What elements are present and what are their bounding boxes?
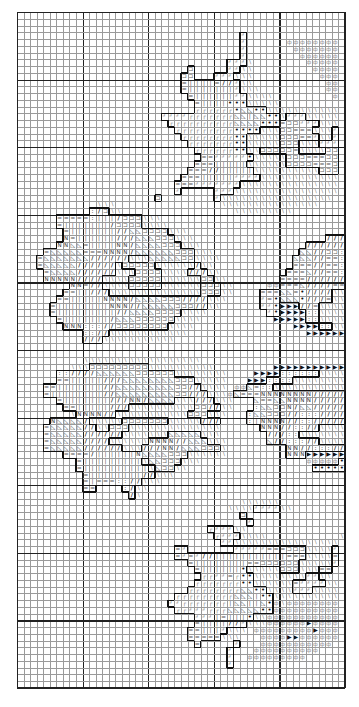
outline-segment	[188, 552, 195, 553]
outline-segment	[246, 620, 247, 627]
outline-segment	[194, 79, 201, 80]
minor-gridline	[17, 269, 345, 270]
outline-segment	[259, 424, 260, 431]
outline-segment	[319, 241, 326, 242]
outline-segment	[121, 485, 122, 492]
outline-segment	[293, 545, 300, 546]
outline-segment	[115, 269, 116, 276]
outline-segment	[259, 174, 260, 181]
outline-segment	[253, 154, 254, 161]
outline-segment	[220, 404, 221, 411]
outline-segment	[312, 390, 319, 391]
outline-segment	[233, 188, 234, 195]
outline-segment	[253, 614, 254, 621]
outline-segment	[122, 268, 129, 269]
outline-segment	[155, 471, 162, 472]
outline-segment	[253, 505, 260, 506]
outline-segment	[174, 607, 175, 614]
outline-segment	[247, 566, 254, 567]
minor-gridline	[17, 100, 345, 101]
outline-segment	[338, 161, 339, 168]
outline-segment	[174, 397, 175, 404]
outline-segment	[247, 106, 254, 107]
outline-segment	[293, 370, 300, 371]
outline-segment	[109, 329, 116, 330]
outline-segment	[266, 147, 273, 148]
outline-segment	[155, 403, 162, 404]
outline-segment	[82, 336, 83, 343]
outline-segment	[168, 431, 175, 432]
outline-segment	[108, 330, 109, 337]
outline-segment	[148, 437, 155, 438]
outline-segment	[43, 383, 50, 384]
minor-gridline	[17, 526, 345, 527]
outline-segment	[63, 417, 70, 418]
minor-gridline	[17, 336, 345, 337]
outline-segment	[246, 39, 247, 46]
outline-segment	[122, 329, 129, 330]
outline-segment	[174, 113, 181, 114]
outline-segment	[344, 418, 345, 425]
outline-segment	[319, 464, 326, 465]
outline-segment	[129, 363, 136, 364]
outline-segment	[115, 424, 122, 425]
outline-segment	[122, 451, 129, 452]
outline-segment	[121, 262, 122, 269]
outline-segment	[56, 241, 63, 242]
outline-segment	[239, 66, 240, 73]
outline-segment	[239, 512, 240, 519]
outline-segment	[279, 134, 280, 141]
outline-segment	[214, 525, 221, 526]
outline-segment	[253, 505, 254, 512]
outline-segment	[129, 403, 136, 404]
outline-segment	[247, 383, 254, 384]
outline-segment	[174, 316, 175, 323]
major-gridline	[17, 620, 345, 621]
outline-segment	[279, 120, 286, 121]
outline-segment	[279, 370, 286, 371]
outline-segment	[253, 545, 260, 546]
outline-segment	[338, 127, 339, 134]
outline-segment	[188, 167, 195, 168]
outline-segment	[325, 580, 326, 587]
minor-gridline	[17, 505, 345, 506]
minor-gridline	[17, 32, 345, 33]
outline-segment	[312, 587, 313, 594]
outline-segment	[109, 363, 116, 364]
outline-segment	[102, 485, 109, 486]
outline-segment	[325, 451, 332, 452]
outline-segment	[76, 214, 83, 215]
outline-segment	[36, 255, 37, 262]
outline-segment	[148, 329, 155, 330]
outline-segment	[292, 255, 293, 262]
major-gridline	[17, 688, 345, 689]
major-gridline	[17, 12, 345, 13]
outline-segment	[109, 437, 116, 438]
outline-segment	[344, 397, 345, 404]
outline-segment	[253, 397, 254, 404]
outline-segment	[129, 289, 136, 290]
minor-gridline	[17, 499, 345, 500]
minor-gridline	[17, 654, 345, 655]
outline-segment	[128, 404, 129, 411]
outline-segment	[43, 424, 50, 425]
minor-gridline	[17, 681, 345, 682]
outline-segment	[194, 147, 195, 154]
outline-segment	[115, 410, 122, 411]
outline-segment	[207, 296, 208, 303]
outline-segment	[188, 417, 195, 418]
outline-segment	[331, 553, 332, 560]
outline-segment	[344, 255, 345, 262]
minor-gridline	[17, 519, 345, 520]
outline-segment	[233, 661, 234, 668]
outline-segment	[43, 384, 44, 391]
outline-segment	[148, 403, 155, 404]
outline-segment	[338, 167, 339, 174]
outline-segment	[318, 167, 319, 174]
outline-segment	[174, 546, 175, 553]
outline-segment	[286, 302, 293, 303]
outline-segment	[286, 545, 293, 546]
outline-segment	[279, 303, 280, 310]
outline-segment	[246, 93, 247, 100]
outline-segment	[292, 580, 293, 587]
